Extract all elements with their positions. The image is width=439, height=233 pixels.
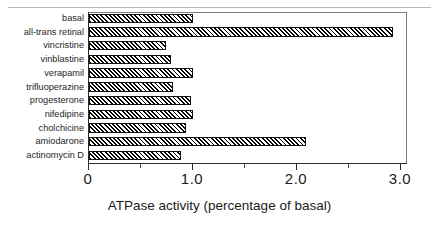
- bar: [89, 96, 191, 105]
- x-axis-title: ATPase activity (percentage of basal): [0, 198, 439, 213]
- bar-row: [89, 53, 407, 67]
- top-rule-divider: [8, 7, 431, 8]
- bar: [89, 55, 171, 64]
- minor-tick: [244, 164, 245, 168]
- figure-container: basalall-trans retinalvincristinevinblas…: [0, 0, 439, 233]
- bar: [89, 82, 173, 91]
- tick-label: 1.0: [162, 170, 222, 187]
- bar-row: [89, 67, 407, 81]
- category-label: all-trans retinal: [0, 26, 84, 40]
- bar: [89, 123, 186, 132]
- bar-row: [89, 122, 407, 136]
- category-label: actinomycin D: [0, 149, 84, 163]
- category-label: trifluoperazine: [0, 81, 84, 95]
- bar: [89, 14, 193, 23]
- category-label: vinblastine: [0, 53, 84, 67]
- category-label: amiodarone: [0, 135, 84, 149]
- bar-row: [89, 26, 407, 40]
- category-label: nifedipine: [0, 108, 84, 122]
- bar-row: [89, 108, 407, 122]
- bar-row: [89, 94, 407, 108]
- bar-row: [89, 81, 407, 95]
- minor-tick: [348, 164, 349, 168]
- tick-label: 2.0: [266, 170, 326, 187]
- category-label: verapamil: [0, 67, 84, 81]
- bar-row: [89, 149, 407, 163]
- bar: [89, 137, 306, 146]
- tick-label: 3.0: [370, 170, 430, 187]
- bar: [89, 27, 393, 36]
- tick-label: 0: [58, 170, 118, 187]
- category-label: progesterone: [0, 94, 84, 108]
- minor-tick: [140, 164, 141, 168]
- category-label: vincristine: [0, 39, 84, 53]
- bar: [89, 151, 181, 160]
- bar-row: [89, 12, 407, 26]
- bar-row: [89, 135, 407, 149]
- bar-series: [89, 12, 407, 163]
- category-label: basal: [0, 12, 84, 26]
- category-axis-labels: basalall-trans retinalvincristinevinblas…: [0, 12, 84, 163]
- bar: [89, 41, 166, 50]
- bar: [89, 110, 193, 119]
- bar: [89, 68, 193, 77]
- bar-row: [89, 39, 407, 53]
- category-label: cholchicine: [0, 122, 84, 136]
- value-axis-spine: [88, 163, 407, 164]
